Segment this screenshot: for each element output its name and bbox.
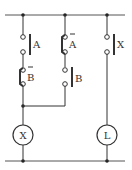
- contact-A-bar: A: [62, 34, 77, 54]
- contact-A: A: [21, 34, 41, 55]
- contact-X: X: [105, 34, 125, 55]
- relay-circuit-diagram: A B A B: [0, 0, 132, 170]
- contact-label-A: A: [32, 39, 41, 50]
- branch-right: X: [105, 15, 125, 125]
- contact-label-X: X: [117, 39, 125, 50]
- coil-X: X: [13, 125, 33, 145]
- contact-B-bar: B: [20, 67, 34, 86]
- coil-label-L: L: [104, 130, 111, 141]
- contact-label-B: B: [75, 73, 82, 84]
- branch-left: A B: [20, 15, 41, 125]
- branch-middle: A B: [23, 15, 82, 106]
- coil-L: L: [97, 125, 117, 145]
- contact-B: B: [63, 67, 83, 87]
- coil-label-X: X: [19, 130, 27, 141]
- contact-label-A-bar: A: [68, 39, 77, 50]
- contact-label-B-bar: B: [27, 72, 34, 83]
